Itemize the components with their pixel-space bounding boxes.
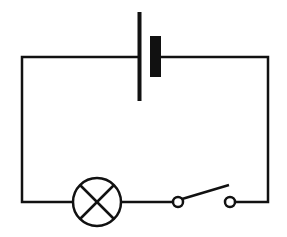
lamp-icon bbox=[73, 178, 121, 226]
battery-icon bbox=[138, 12, 162, 101]
wire-top-left bbox=[22, 57, 139, 202]
circuit-diagram bbox=[0, 0, 287, 237]
switch-icon bbox=[173, 185, 235, 207]
wire-top-right bbox=[156, 57, 268, 202]
